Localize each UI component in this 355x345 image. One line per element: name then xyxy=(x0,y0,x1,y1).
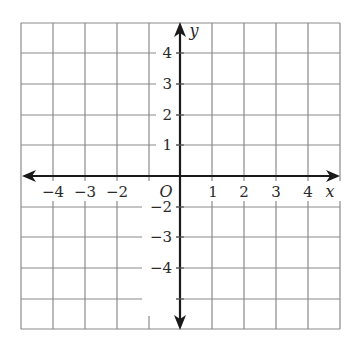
coordinate-plane: −4 −3 −2 O 1 2 3 4 x 4 3 2 1 −2 −3 −4 y xyxy=(0,0,355,345)
y-tick-label: −4 xyxy=(150,259,172,277)
y-tick-label: −3 xyxy=(150,228,172,246)
x-tick-label: 3 xyxy=(271,183,281,201)
x-tick-label: −2 xyxy=(106,183,128,201)
x-tick-label: −3 xyxy=(74,183,96,201)
y-axis-label: y xyxy=(188,21,199,40)
x-tick-label: 1 xyxy=(208,183,218,201)
y-tick-label: −2 xyxy=(150,198,172,216)
y-tick-label: 3 xyxy=(162,75,172,93)
y-tick-label: 1 xyxy=(162,136,172,154)
x-tick-label: 2 xyxy=(239,183,249,201)
x-tick-label: 4 xyxy=(303,183,313,201)
x-tick-label: −4 xyxy=(42,183,64,201)
y-tick-label: 2 xyxy=(162,106,172,124)
y-tick-label: 4 xyxy=(162,44,172,62)
x-axis-label: x xyxy=(325,182,334,201)
